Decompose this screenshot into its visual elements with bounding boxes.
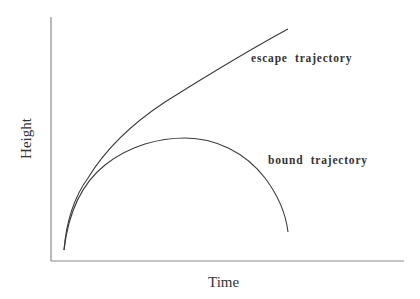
escape-trajectory-label: escape trajectory — [251, 52, 352, 64]
x-axis-label: Time — [208, 274, 239, 291]
bound-trajectory-label: bound trajectory — [268, 154, 368, 166]
trajectory-diagram — [0, 0, 420, 299]
y-axis-label: Height — [18, 117, 35, 161]
bound-trajectory-curve — [64, 138, 288, 250]
